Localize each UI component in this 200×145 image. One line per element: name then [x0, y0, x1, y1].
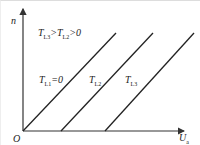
y-axis-label: n [11, 16, 16, 26]
curve-tl1 [23, 33, 116, 131]
origin-label: O [13, 134, 20, 144]
curve-label-tl1: TL1=0 [39, 75, 63, 87]
curve-label-tl3: TL3 [125, 75, 137, 87]
curve-label-tl2: TL2 [89, 75, 101, 87]
diagram-canvas [1, 1, 200, 145]
condition-label: TL3>TL2>0 [38, 28, 81, 40]
torque-speed-diagram: n O Ua TL3>TL2>0 TL1=0 TL2 TL3 [0, 0, 200, 145]
curve-tl3 [105, 33, 194, 131]
x-axis-label: Ua [179, 133, 189, 145]
curve-tl2 [61, 33, 153, 131]
